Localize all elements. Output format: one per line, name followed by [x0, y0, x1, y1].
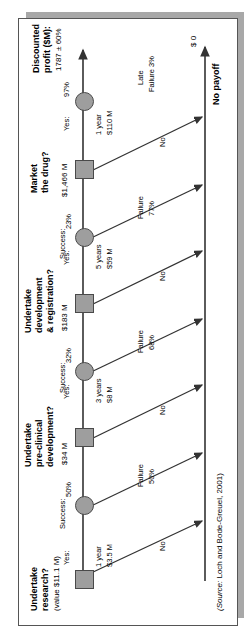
figure-canvas: Undertake research? (value $11.1 M) Yes:… [19, 19, 237, 625]
edge-label-preclinical-cost: $8 M [106, 386, 115, 403]
stage-title-preclinical-line3: development? [45, 406, 55, 467]
stage-title-development-line2: development [34, 277, 44, 333]
no-payoff-value: $ 0 [189, 36, 198, 47]
edge-label-market-yes: Yes: [63, 117, 72, 131]
edge-label-market-duration: 1 year [95, 114, 104, 135]
chance-node-market[interactable] [75, 92, 94, 111]
edge-label-development-failure: Failure [137, 196, 146, 219]
outcome-value: 1787 ± 60% [54, 28, 63, 71]
edge-label-development-success-prob: 23% [65, 214, 74, 229]
edge-label-research-no: No [159, 541, 168, 551]
stage-title-preclinical-line1: Undertake [23, 423, 33, 467]
edge-label-preclinical-no: No [159, 405, 168, 415]
stage-title-market-line1: Market [29, 164, 39, 193]
edge-label-development-success: Success: [59, 229, 68, 259]
decision-node-research[interactable] [75, 570, 94, 589]
source-prefix: (Source: [215, 581, 224, 611]
stage-title-research-line2: research? [40, 568, 50, 611]
source-note: (Source: Loch and Bode-Greuel, 2001) [215, 473, 224, 611]
stage-title-research-line1: Undertake [29, 567, 39, 611]
chance-node-preclinical[interactable] [75, 362, 94, 381]
stage-title-development-line3: & registration? [45, 269, 55, 333]
edge-label-research-cost: $3.5 M [106, 544, 115, 567]
outcome-title-line2: profit ($M): [42, 26, 52, 73]
decision-node-market[interactable] [75, 160, 94, 179]
source-rest: Loch and Bode-Greuel, 2001) [215, 473, 224, 581]
edge-label-research-failure: Failure [137, 464, 146, 487]
edge-label-market-cost: $110 M [106, 111, 115, 135]
decision-node-preclinical[interactable] [75, 428, 94, 447]
chance-node-development[interactable] [75, 228, 94, 247]
decision-tree-stage: Undertake research? (value $11.1 M) Yes:… [19, 19, 237, 625]
figure-frame: Undertake research? (value $11.1 M) Yes:… [18, 18, 238, 626]
edge-label-development-cost: $59 M [106, 248, 115, 269]
edge-label-research-failure-prob: 50% [148, 469, 157, 484]
stage-subtitle-research-value: (value $11.1 M) [52, 556, 61, 611]
edge-label-development-no: No [159, 271, 168, 281]
edge-label-market-late-failure-prob: Failure 3% [148, 56, 157, 92]
outcome-title-line1: Discounted [31, 24, 41, 73]
edge-label-preclinical-failure: Failure [137, 330, 146, 353]
no-payoff-label: No payoff [211, 64, 221, 106]
edge-label-research-success: Success: [59, 499, 68, 529]
edge-label-preclinical-success: Success: [59, 363, 68, 393]
edge-label-market-no: No [159, 137, 168, 147]
edge-label-development-failure-prob: 77% [148, 201, 157, 216]
stage-value-preclinical: $34 M [60, 443, 69, 465]
chance-node-research[interactable] [75, 496, 94, 515]
stage-value-development: $183 M [60, 304, 69, 331]
edge-label-research-duration: 1 year [95, 546, 104, 567]
edge-label-preclinical-failure-prob: 68% [148, 335, 157, 350]
stage-title-development-line1: Undertake [23, 289, 33, 333]
edge-label-preclinical-duration: 3 years [95, 378, 104, 403]
edge-label-development-duration: 5 years [95, 244, 104, 269]
edge-label-preclinical-success-prob: 32% [65, 348, 74, 363]
edge-label-research-success-prob: 50% [65, 482, 74, 497]
edge-label-research-yes: Yes: [63, 551, 72, 565]
edge-label-market-success-prob: 97% [63, 82, 72, 97]
figure-page: Undertake research? (value $11.1 M) Yes:… [0, 0, 251, 633]
stage-title-market-line2: the drug? [40, 152, 50, 194]
edge-label-market-late: Late [137, 70, 146, 85]
stage-title-preclinical-line2: pre-clinical [34, 419, 44, 467]
decision-node-development[interactable] [75, 294, 94, 313]
stage-value-market: $1,466 M [60, 164, 69, 197]
